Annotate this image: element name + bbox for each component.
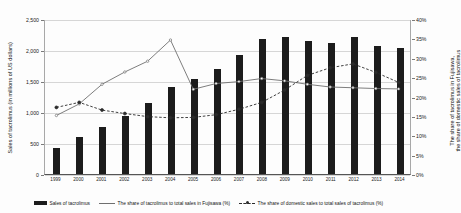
solid-line-swatch-icon xyxy=(99,201,115,206)
y-tick-label-right: 30% xyxy=(416,56,450,62)
line-marker xyxy=(374,71,377,74)
line-marker xyxy=(192,88,194,90)
x-axis-tick-labels: 1999200020012002200320042005200620072008… xyxy=(44,177,411,190)
line-series-overlay xyxy=(45,20,410,174)
x-tick-label: 2013 xyxy=(368,177,386,182)
dashed-line-swatch-icon xyxy=(239,201,255,206)
line-path xyxy=(56,64,398,118)
legend-item[interactable]: Sales of tacrolimus xyxy=(34,201,90,206)
y-tick-label-right: 25% xyxy=(416,75,450,81)
line-marker xyxy=(215,113,218,116)
line-marker xyxy=(238,80,240,82)
line-marker xyxy=(169,39,171,41)
chart-legend: Sales of tacrolimusThe share of tacrolim… xyxy=(34,197,454,209)
y-tick-label-left: 2,500 xyxy=(5,17,39,23)
y-tick-label-left: 1,000 xyxy=(5,110,39,116)
line-marker xyxy=(261,77,263,79)
x-tick-label: 2007 xyxy=(230,177,248,182)
line-marker xyxy=(351,62,354,65)
line-marker xyxy=(101,83,103,85)
y-tick-mark-right xyxy=(412,98,415,99)
x-tick-label: 2003 xyxy=(138,177,156,182)
y-tick-mark-right xyxy=(412,59,415,60)
line-marker xyxy=(329,86,331,88)
x-tick-label: 2008 xyxy=(253,177,271,182)
line-marker xyxy=(237,108,240,111)
line-marker xyxy=(169,116,172,119)
legend-item[interactable]: The share of domestic sales to total sal… xyxy=(239,201,383,206)
x-tick-label: 2006 xyxy=(207,177,225,182)
line-marker xyxy=(283,89,286,92)
y-tick-label-left: 0 xyxy=(5,172,39,178)
y-tick-label-right: 35% xyxy=(416,36,450,42)
line-marker xyxy=(283,80,285,82)
x-tick-label: 2011 xyxy=(322,177,340,182)
legend-label: Sales of tacrolimus xyxy=(50,201,91,206)
x-tick-label: 2005 xyxy=(184,177,202,182)
y-tick-label-right: 20% xyxy=(416,95,450,101)
line-marker xyxy=(397,81,400,84)
legend-label: The share of domestic sales to total sal… xyxy=(258,201,384,206)
plot-area xyxy=(44,20,411,175)
y-tick-mark-right xyxy=(412,117,415,118)
legend-label: The share of tacrolimus to total sales i… xyxy=(118,201,231,206)
x-tick-label: 2014 xyxy=(391,177,409,182)
line-marker xyxy=(375,87,377,89)
line-marker xyxy=(78,101,81,104)
gridline xyxy=(45,175,410,176)
y-tick-label-right: 40% xyxy=(416,17,450,23)
line-marker xyxy=(146,115,149,118)
y-tick-mark-right xyxy=(412,20,415,21)
y-tick-label-right: 0% xyxy=(416,172,450,178)
line-path xyxy=(56,40,398,115)
bar-swatch-icon xyxy=(34,201,47,204)
x-tick-label: 2004 xyxy=(161,177,179,182)
line-marker xyxy=(146,60,148,62)
line-marker xyxy=(329,66,332,69)
line-marker xyxy=(55,114,57,116)
x-tick-label: 2010 xyxy=(299,177,317,182)
line-marker xyxy=(192,116,195,119)
line-marker xyxy=(123,112,126,115)
y-tick-mark-right xyxy=(412,78,415,79)
line-marker xyxy=(124,71,126,73)
y-tick-mark-right xyxy=(412,156,415,157)
line-marker xyxy=(306,83,308,85)
x-tick-label: 2002 xyxy=(115,177,133,182)
line-marker xyxy=(397,88,399,90)
x-tick-label: 1999 xyxy=(46,177,64,182)
legend-item[interactable]: The share of tacrolimus to total sales i… xyxy=(99,201,230,206)
line-marker xyxy=(215,82,217,84)
y-tick-mark-right xyxy=(412,39,415,40)
chart-container: Sales of tacrolimus (in millions of US d… xyxy=(0,0,461,213)
y-axis-title-right: The share of tacrolimus in Fujisawa, the… xyxy=(450,26,461,176)
y-tick-label-left: 2,000 xyxy=(5,48,39,54)
line-marker xyxy=(306,74,309,77)
line-marker xyxy=(101,109,104,112)
y-tick-mark-right xyxy=(412,136,415,137)
x-tick-label: 2001 xyxy=(92,177,110,182)
line-marker xyxy=(55,106,58,109)
y-tick-label-right: 5% xyxy=(416,153,450,159)
x-tick-label: 2009 xyxy=(276,177,294,182)
line-marker xyxy=(260,101,263,104)
y-tick-mark-right xyxy=(412,175,415,176)
y-tick-label-right: 15% xyxy=(416,114,450,120)
y-tick-label-left: 1,500 xyxy=(5,79,39,85)
x-tick-label: 2000 xyxy=(69,177,87,182)
line-marker xyxy=(352,87,354,89)
x-tick-label: 2012 xyxy=(345,177,363,182)
y-tick-label-left: 500 xyxy=(5,141,39,147)
y-tick-mark-left xyxy=(41,175,44,176)
y-axis-title-right-line2: the share of domestic sales of tacrolimu… xyxy=(456,26,461,176)
y-tick-label-right: 10% xyxy=(416,133,450,139)
